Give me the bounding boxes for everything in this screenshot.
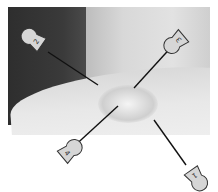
marker-3: 3: [161, 30, 189, 57]
marker-2: 2: [18, 25, 46, 51]
marker-overlay: 2 3 4 1: [0, 0, 218, 192]
marker-1: 1: [184, 166, 210, 192]
